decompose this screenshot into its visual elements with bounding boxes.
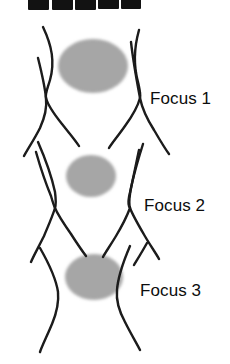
focus-label-3: Focus 3 [140, 282, 201, 299]
focus-blob-1 [58, 39, 128, 93]
focus-label-1: Focus 1 [150, 90, 211, 107]
beam-left-inner-upper [24, 58, 46, 156]
focus-blob-3 [65, 254, 123, 300]
beam-right-stub-lower [134, 243, 147, 265]
figure-root: Focus 1 Focus 2 Focus 3 [0, 0, 230, 364]
beam-left-lower [40, 248, 58, 352]
focus-blob-group [58, 39, 128, 300]
focus-schematic [0, 0, 230, 364]
focus-blob-2 [66, 155, 116, 197]
focus-label-2: Focus 2 [144, 197, 205, 214]
